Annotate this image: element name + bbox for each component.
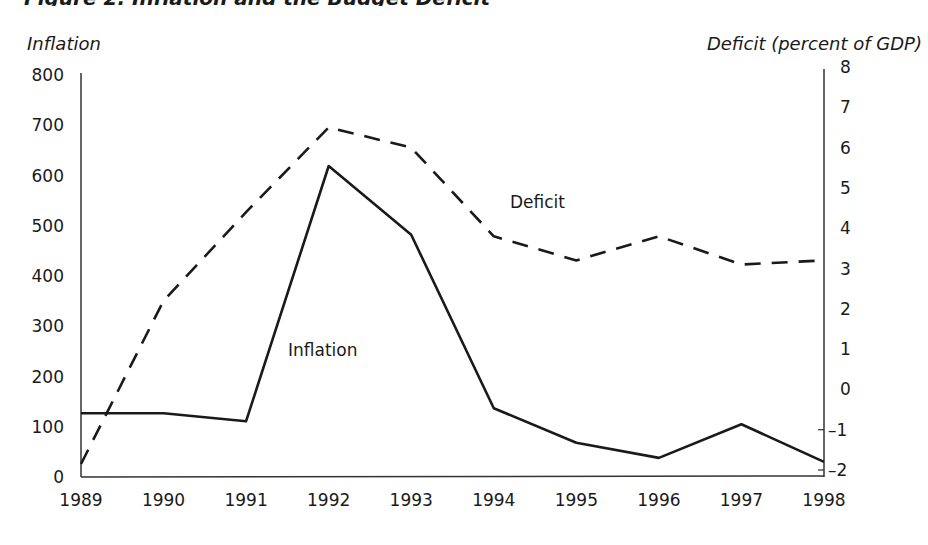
right-tick-label: 4: [840, 218, 851, 238]
right-tick-label: 0: [840, 379, 851, 399]
left-tick-label: 200: [32, 367, 64, 387]
x-tick-label: 1993: [390, 490, 433, 510]
right-tick-label: 5: [840, 178, 851, 198]
right-tick-label: 7: [840, 97, 851, 117]
series-labels: DeficitInflation: [288, 192, 565, 360]
x-tick-label: 1989: [59, 490, 102, 510]
x-tick-label: 1995: [555, 490, 598, 510]
right-tick-label: 3: [840, 259, 851, 279]
left-tick-label: 500: [32, 216, 64, 236]
tick-labels: 0100200300400500600700800–2–101234567819…: [32, 57, 851, 510]
x-tick-label: 1992: [307, 490, 350, 510]
left-tick-label: 400: [32, 266, 64, 286]
left-tick-label: 100: [32, 417, 64, 437]
right-tick-label: –2: [828, 460, 847, 480]
deficit-line: [81, 127, 824, 464]
x-tick-label: 1994: [472, 490, 515, 510]
x-tick-label: 1997: [720, 490, 763, 510]
right-tick-label: –1: [828, 420, 847, 440]
x-tick-label: 1991: [224, 490, 267, 510]
x-tick-label: 1990: [142, 490, 185, 510]
left-tick-label: 800: [32, 65, 64, 85]
left-tick-label: 700: [32, 115, 64, 135]
x-tick-label: 1998: [802, 490, 845, 510]
left-tick-label: 600: [32, 166, 64, 186]
right-tick-label: 6: [840, 138, 851, 158]
right-tick-label: 2: [840, 299, 851, 319]
left-tick-label: 0: [53, 467, 64, 487]
right-tick-label: 8: [840, 57, 851, 77]
chart-plot: 0100200300400500600700800–2–101234567819…: [0, 0, 928, 545]
inflation-line: [81, 166, 824, 462]
inflation-series-label: Inflation: [288, 340, 357, 360]
x-axis-line: [81, 476, 824, 477]
right-tick-label: 1: [840, 339, 851, 359]
series-lines: [81, 127, 824, 464]
deficit-series-label: Deficit: [510, 192, 565, 212]
x-tick-label: 1996: [637, 490, 680, 510]
left-tick-label: 300: [32, 316, 64, 336]
